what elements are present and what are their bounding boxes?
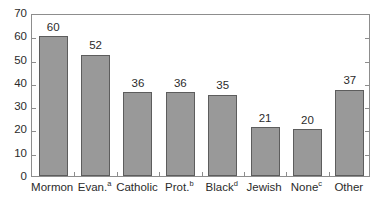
plot-area: 6052363635212037: [31, 14, 370, 177]
y-axis-tick-label: 60: [0, 32, 27, 44]
x-axis-tick-mark: [244, 172, 245, 176]
x-axis-tick-mark: [159, 172, 160, 176]
bar: [166, 92, 195, 176]
y-axis-tick-mark: [32, 85, 36, 86]
y-axis-tick-mark: [365, 108, 369, 109]
x-axis-tick-label-text: None: [291, 181, 319, 193]
y-axis-tick-mark: [365, 62, 369, 63]
bar: [39, 36, 68, 176]
y-axis-tick-label: 20: [0, 125, 27, 137]
bar-value-label: 52: [76, 40, 116, 52]
y-axis-tick-mark: [365, 155, 369, 156]
bar-value-label: 20: [287, 115, 327, 127]
y-axis-tick-mark: [32, 155, 36, 156]
y-axis-tick-mark: [32, 38, 36, 39]
bar-value-label: 37: [330, 75, 370, 87]
y-axis-tick-mark: [365, 38, 369, 39]
x-axis-tick-mark: [202, 172, 203, 176]
x-axis-tick-label-text: Black: [206, 181, 234, 193]
bar: [208, 95, 237, 177]
bar: [81, 55, 110, 176]
y-axis-tick-mark: [32, 131, 36, 132]
bar-value-label: 60: [33, 22, 73, 34]
x-axis-tick-mark: [329, 172, 330, 176]
bar-value-label: 21: [245, 113, 285, 125]
bar-value-label: 36: [160, 78, 200, 90]
x-axis-tick-mark: [286, 172, 287, 176]
x-axis-tick-mark: [117, 172, 118, 176]
bar: [123, 92, 152, 176]
bar: [293, 129, 322, 176]
y-axis-tick-label: 10: [0, 148, 27, 160]
x-axis-tick-label-text: Evan.: [78, 181, 107, 193]
bar-chart: 706050403020100 6052363635212037 MormonE…: [0, 0, 386, 207]
bar: [335, 90, 364, 176]
bar-value-label: 36: [118, 78, 158, 90]
y-axis-tick-label: 30: [0, 101, 27, 113]
y-axis-tick-mark: [32, 108, 36, 109]
y-axis-tick-mark: [365, 131, 369, 132]
x-axis-tick-mark: [74, 172, 75, 176]
y-axis-tick-label: 70: [0, 8, 27, 20]
x-axis-tick-label: Other: [319, 182, 379, 194]
x-axis-tick-label-text: Other: [334, 181, 363, 193]
bar: [251, 127, 280, 176]
bar-value-label: 35: [203, 80, 243, 92]
y-axis-tick-mark: [32, 62, 36, 63]
y-axis-tick-label: 40: [0, 78, 27, 90]
y-axis-tick-label: 50: [0, 55, 27, 67]
x-axis-tick-label-text: Prot.: [165, 181, 189, 193]
